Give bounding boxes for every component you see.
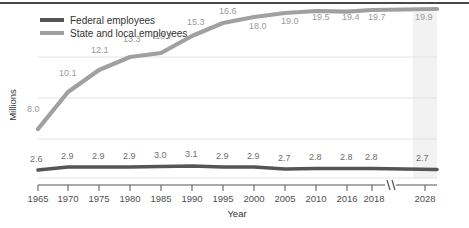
x-tick-label: 2005 bbox=[274, 193, 295, 204]
data-label: 19.7 bbox=[368, 12, 386, 22]
data-label: 2.9 bbox=[61, 151, 74, 161]
data-label: 16.6 bbox=[219, 6, 237, 16]
data-label: 2.8 bbox=[309, 152, 322, 162]
legend-label-state-and-local: State and local employees bbox=[70, 28, 187, 39]
axis-break-marks bbox=[387, 180, 395, 190]
data-label: 10.1 bbox=[59, 68, 77, 78]
x-tick-label: 1975 bbox=[88, 193, 109, 204]
x-tick-label: 2028 bbox=[414, 193, 435, 204]
data-label: 2.8 bbox=[340, 152, 353, 162]
line-chart-svg: 8.0 10.1 12.1 13.3 13.7 15.3 16.6 18.0 1… bbox=[0, 0, 469, 228]
series-line-federal bbox=[38, 166, 437, 170]
x-tick-label: 2018 bbox=[363, 193, 384, 204]
data-label: 15.3 bbox=[187, 17, 205, 27]
data-label: 19.0 bbox=[281, 16, 299, 26]
data-label: 2.6 bbox=[30, 154, 43, 164]
x-axis-tick-labels: 1965 1970 1975 1980 1985 1990 1995 2000 … bbox=[27, 193, 435, 204]
x-axis-title: Year bbox=[227, 208, 246, 219]
data-label: 2.9 bbox=[247, 151, 260, 161]
x-tick-label: 1965 bbox=[27, 193, 48, 204]
y-axis-title: Millions bbox=[7, 89, 18, 121]
data-label: 2.7 bbox=[416, 153, 429, 163]
data-labels-federal: 2.6 2.9 2.9 2.9 3.0 3.1 2.9 2.9 2.7 2.8 … bbox=[30, 149, 429, 164]
x-tick-label: 2016 bbox=[336, 193, 357, 204]
data-label: 2.9 bbox=[92, 151, 105, 161]
data-label: 19.9 bbox=[415, 12, 433, 22]
x-tick-label: 1985 bbox=[150, 193, 171, 204]
data-label: 2.9 bbox=[123, 151, 136, 161]
chart-container: 8.0 10.1 12.1 13.3 13.7 15.3 16.6 18.0 1… bbox=[0, 0, 469, 228]
data-label: 2.8 bbox=[365, 152, 378, 162]
data-label: 2.7 bbox=[278, 153, 291, 163]
legend-label-federal: Federal employees bbox=[70, 15, 155, 26]
legend: Federal employees State and local employ… bbox=[40, 15, 187, 39]
x-tick-label: 1990 bbox=[181, 193, 202, 204]
data-label: 19.5 bbox=[312, 12, 330, 22]
data-label: 18.0 bbox=[249, 21, 267, 31]
data-label: 12.1 bbox=[91, 45, 109, 55]
data-label: 2.9 bbox=[216, 151, 229, 161]
x-tick-label: 1995 bbox=[212, 193, 233, 204]
data-label: 3.1 bbox=[185, 149, 198, 159]
data-label: 8.0 bbox=[27, 104, 40, 114]
x-tick-label: 2010 bbox=[305, 193, 326, 204]
data-label: 19.4 bbox=[342, 12, 360, 22]
data-label: 3.0 bbox=[154, 150, 167, 160]
x-tick-label: 2000 bbox=[243, 193, 264, 204]
x-tick-label: 1980 bbox=[119, 193, 140, 204]
x-tick-label: 1970 bbox=[57, 193, 78, 204]
x-axis-ticks bbox=[38, 185, 425, 191]
